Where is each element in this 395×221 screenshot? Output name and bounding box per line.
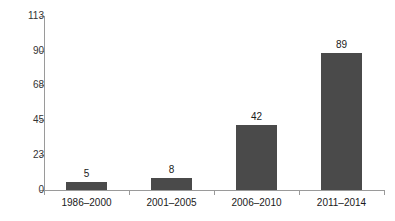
y-tick-label-0: 0: [10, 185, 44, 195]
y-tick-label-5: 113: [10, 11, 44, 21]
y-tick-label-3: 68: [10, 80, 44, 90]
x-tick-mark-start: [44, 190, 45, 195]
y-tick-label-4: 90: [10, 46, 44, 56]
x-tick-mark-end: [384, 190, 385, 195]
bar-value-label-1: 8: [151, 164, 192, 175]
y-axis-line: [44, 16, 45, 191]
bar-0[interactable]: [66, 182, 107, 190]
y-tick-label-2: 45: [10, 115, 44, 125]
bar-3[interactable]: [321, 53, 362, 190]
bar-value-label-3: 89: [321, 39, 362, 50]
bar-2[interactable]: [236, 125, 277, 190]
x-tick-mark-2: [214, 190, 215, 195]
x-tick-mark-1: [129, 190, 130, 195]
bar-value-label-2: 42: [236, 111, 277, 122]
x-axis-label-2: 2006–2010: [211, 197, 302, 209]
x-axis-label-0: 1986–2000: [41, 197, 132, 209]
x-axis-label-3: 2011–2014: [296, 197, 387, 209]
bar-1[interactable]: [151, 178, 192, 190]
bar-chart: 113 90 68 45 23 0 5 1986–2000 8 2001–200…: [0, 0, 395, 221]
x-tick-mark-3: [299, 190, 300, 195]
x-axis-label-1: 2001–2005: [126, 197, 217, 209]
y-tick-label-1: 23: [10, 150, 44, 160]
bar-value-label-0: 5: [66, 168, 107, 179]
